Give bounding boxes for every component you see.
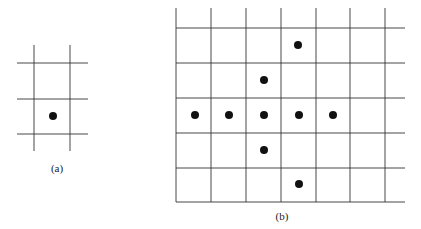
grid-dot	[191, 111, 199, 119]
grid-dot	[295, 111, 303, 119]
figure-a-grid	[17, 45, 88, 151]
grid-dot	[294, 41, 302, 49]
grid-dot	[260, 146, 268, 154]
grid-dot	[329, 111, 337, 119]
figure-b-grid	[176, 8, 405, 202]
figure-b-caption: (b)	[276, 210, 289, 223]
grid-dot	[49, 112, 57, 120]
grid-dot	[295, 180, 303, 188]
grid-dot	[225, 111, 233, 119]
diagram-canvas: (a) (b)	[0, 0, 421, 229]
figure-a-caption: (a)	[51, 162, 64, 175]
grid-dot	[260, 111, 268, 119]
grid-dot	[260, 76, 268, 84]
